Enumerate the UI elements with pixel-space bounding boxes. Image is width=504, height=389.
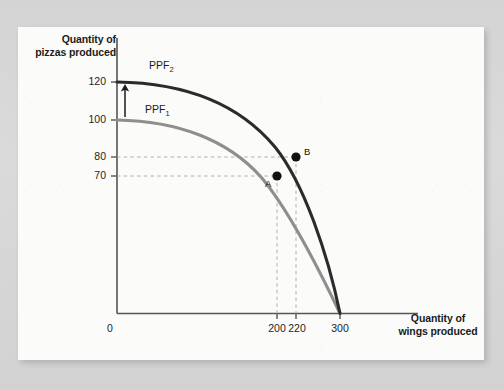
ppf1-label-subscript: 1 (165, 109, 169, 118)
ppf2-label-subscript: 2 (169, 65, 173, 74)
y-tick-label-80: 80 (72, 150, 106, 162)
point-b-marker (291, 152, 300, 161)
y-tick-label-120: 120 (72, 75, 106, 87)
x-axis-title-line1: Quantity of (393, 312, 483, 325)
ppf1-label-text: PPF (145, 103, 165, 115)
x-tick-label-0: 0 (103, 322, 117, 334)
point-a-label: A (265, 178, 271, 189)
point-b-label: B (304, 146, 310, 157)
x-axis-title-line2: wings produced (393, 325, 483, 338)
ppf2-label: PPF2 (149, 59, 174, 74)
figure-panel: Quantity of pizzas produced Quantity of … (18, 27, 484, 360)
y-axis-title-line1: Quantity of (20, 33, 116, 46)
point-a-marker (272, 171, 281, 180)
y-axis-ticks (111, 82, 117, 176)
y-tick-label-100: 100 (72, 113, 106, 125)
y-axis-title-line2: pizzas produced (20, 46, 116, 59)
y-axis-title: Quantity of pizzas produced (20, 33, 116, 59)
page-background: Quantity of pizzas produced Quantity of … (0, 0, 504, 389)
x-tick-label-220: 220 (282, 322, 312, 334)
x-axis-title: Quantity of wings produced (393, 312, 483, 338)
ppf1-label: PPF1 (145, 103, 170, 118)
x-tick-label-300: 300 (325, 322, 355, 334)
y-tick-label-70: 70 (72, 169, 106, 181)
x-axis-ticks (277, 314, 340, 320)
ppf2-label-text: PPF (149, 59, 169, 71)
